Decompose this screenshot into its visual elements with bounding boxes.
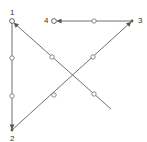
edge-1-to-2: [10, 23, 14, 129]
waypoint-circle: [10, 56, 14, 60]
edge-3-to-4: [57, 19, 131, 23]
node-label-2: 2: [10, 134, 15, 142]
waypoint-circle: [50, 55, 54, 59]
waypoint-circle: [52, 93, 56, 97]
diagram-canvas: 1 2 3 4: [0, 0, 147, 142]
node-1: [10, 19, 15, 24]
node-label-3: 3: [138, 16, 143, 25]
node-label-1: 1: [10, 8, 15, 17]
node-label-4: 4: [44, 16, 49, 25]
node-2: [11, 129, 14, 132]
node-4: [52, 19, 57, 24]
edge-start-to-1: [14, 23, 111, 109]
waypoint-circle: [10, 94, 14, 98]
waypoint-circle: [92, 19, 96, 23]
waypoint-circle: [92, 92, 96, 96]
node-3: [131, 20, 134, 23]
waypoint-circle: [91, 55, 95, 59]
